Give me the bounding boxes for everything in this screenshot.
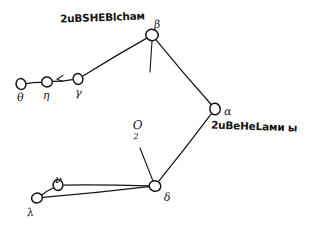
node-label-eta: η (43, 90, 50, 101)
arrow-layer (57, 75, 63, 81)
arrow-mark-eta-gamma-arrow (57, 75, 63, 81)
graph-edge-gamma-beta (83, 38, 146, 76)
graph-edge-nu-lam (42, 188, 53, 195)
graph-node-alpha[interactable] (209, 102, 221, 115)
graph-edge-theta-eta (27, 82, 41, 83)
node-label-theta: θ (17, 92, 24, 103)
annotation-alpha-annotation: 2uBeHeLaми ы (211, 119, 298, 133)
sketch-canvas: θηγβαδνλ2uBSHEBlchaм2uBeHeLaми ыO2 (0, 0, 324, 227)
graph-node-gamma[interactable] (72, 73, 84, 86)
tick-origin-tick (140, 148, 153, 181)
graph-edge-beta-alpha (156, 40, 211, 104)
graph-drawing (0, 0, 324, 227)
graph-edge-alpha-delta (159, 114, 211, 181)
node-label-lam: λ (27, 207, 35, 219)
node-label-alpha: α (224, 106, 232, 117)
graph-node-theta[interactable] (15, 77, 28, 91)
graph-node-delta[interactable] (148, 179, 162, 192)
node-label-gamma: γ (75, 87, 82, 98)
origin-letter: O (132, 118, 143, 132)
node-label-delta: δ (164, 192, 171, 203)
graph-node-lam[interactable] (30, 192, 43, 205)
tick-layer (140, 41, 153, 181)
annotation-top-annotation: 2uBSHEBlchaм (60, 11, 145, 24)
graph-node-eta[interactable] (41, 77, 52, 87)
node-label-beta: β (154, 19, 161, 31)
origin-marker: O2 (132, 119, 143, 141)
tick-beta-tick (150, 41, 152, 72)
node-label-nu: ν (55, 174, 62, 185)
graph-edge-delta-nu (64, 185, 149, 186)
origin-subscript: 2 (133, 133, 143, 142)
